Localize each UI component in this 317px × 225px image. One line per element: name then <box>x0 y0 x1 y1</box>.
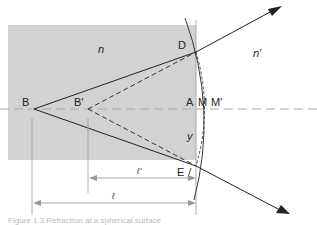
point-mprime-label: M' <box>211 96 222 108</box>
point-b-label: B <box>22 96 29 108</box>
refracted-ray-upper <box>196 11 272 52</box>
refracted-ray-lower <box>196 166 280 210</box>
point-a-label: A <box>186 96 194 108</box>
refraction-diagram: n n' D E B B' A M M' y ℓ' ℓ Figure 1.3 R… <box>0 0 317 225</box>
l-label: ℓ <box>111 191 115 201</box>
point-d-label: D <box>178 39 186 51</box>
point-e-label: E <box>177 166 184 178</box>
arrowhead-upper-icon <box>268 6 282 16</box>
point-m-label: M <box>198 96 207 108</box>
l-prime-label: ℓ' <box>136 166 142 176</box>
index-n-prime-label: n' <box>253 47 262 59</box>
point-bprime-label: B' <box>74 96 83 108</box>
index-n-label: n <box>98 43 104 55</box>
figure-caption: Figure 1.3 Refraction at a spherical sur… <box>8 216 162 225</box>
